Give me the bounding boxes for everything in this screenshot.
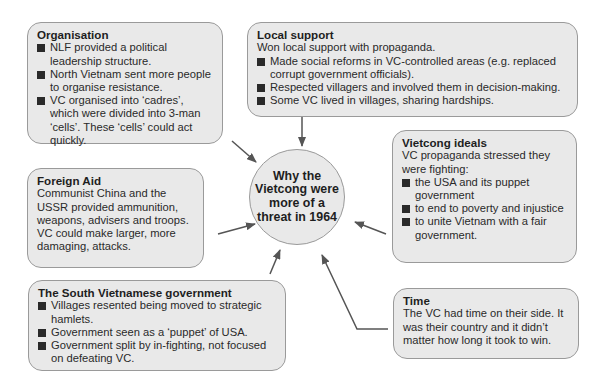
local-support-box: Local support Won local support with pro… xyxy=(247,22,578,117)
list-item: to unite Vietnam with a fair government. xyxy=(402,215,568,241)
vietcong-ideals-box: Vietcong ideals VC propaganda stressed t… xyxy=(392,130,577,263)
foreign-aid-box: Foreign Aid Communist China and the USSR… xyxy=(27,168,204,268)
list-item: VC organised into ‘cadres’, which were d… xyxy=(37,94,214,147)
vietcong-ideals-title: Vietcong ideals xyxy=(402,136,568,149)
list-item: Respected villagers and involved them in… xyxy=(257,81,569,94)
list-item: Made social reforms in VC-controlled are… xyxy=(257,55,569,81)
central-question-circle: Why the Vietcong were more of a threat i… xyxy=(249,149,345,245)
list-item: North Vietnam sent more people to organi… xyxy=(37,68,214,94)
list-item: Villages resented being moved to strateg… xyxy=(38,299,277,325)
arrow-from-foreign-aid xyxy=(218,224,255,234)
south-vietnamese-government-list: Villages resented being moved to strateg… xyxy=(38,299,277,365)
south-vietnamese-government-box: The South Vietnamese government Villages… xyxy=(28,280,286,371)
organisation-title: Organisation xyxy=(37,28,214,41)
local-support-title: Local support xyxy=(257,28,569,41)
vietcong-ideals-list: the USA and its puppet government to end… xyxy=(402,176,568,242)
central-question-text: Why the Vietcong were more of a threat i… xyxy=(254,170,340,224)
list-item: NLF provided a political leadership stru… xyxy=(37,41,214,67)
list-item: to end to poverty and injustice xyxy=(402,202,568,215)
foreign-aid-text: Communist China and the USSR provided am… xyxy=(37,187,195,253)
arrow-from-time xyxy=(322,255,388,329)
vietcong-ideals-intro: VC propaganda stressed they were fightin… xyxy=(402,149,568,175)
local-support-list: Made social reforms in VC-controlled are… xyxy=(257,55,569,108)
time-box: Time The VC had time on their side. It w… xyxy=(393,288,579,359)
arrow-from-vietcong-ideals xyxy=(355,222,386,234)
south-vietnamese-government-title: The South Vietnamese government xyxy=(38,286,277,299)
local-support-intro: Won local support with propaganda. xyxy=(257,41,569,54)
list-item: Some VC lived in villages, sharing hards… xyxy=(257,94,569,107)
time-title: Time xyxy=(403,294,570,307)
arrow-from-organisation xyxy=(232,141,256,162)
organisation-box: Organisation NLF provided a political le… xyxy=(27,22,223,144)
list-item: the USA and its puppet government xyxy=(402,176,568,202)
arrow-from-south-vietnamese-government xyxy=(270,250,280,274)
list-item: Government seen as a ‘puppet’ of USA. xyxy=(38,326,277,339)
organisation-list: NLF provided a political leadership stru… xyxy=(37,41,214,147)
list-item: Government split by in-fighting, not foc… xyxy=(38,339,277,365)
time-text: The VC had time on their side. It was th… xyxy=(403,307,570,347)
foreign-aid-title: Foreign Aid xyxy=(37,174,195,187)
